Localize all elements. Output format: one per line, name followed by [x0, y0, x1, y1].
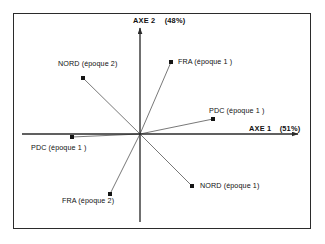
point-marker-NORD-epoque-1	[190, 184, 193, 187]
y-axis-label: AXE 2 (48%)	[133, 16, 185, 25]
point-label-FRA-epoque-2: FRA (époque 2)	[62, 196, 114, 205]
point-label-PDC-epoque-1-left: PDC (époque 1 )	[31, 143, 86, 152]
x-axis-variance-pct: (51%)	[280, 124, 301, 133]
point-label-NORD-epoque-2: NORD (époque 2)	[58, 59, 117, 68]
point-label-PDC-epoque-1-right: PDC (époque 1 )	[209, 106, 264, 115]
y-axis-variance-pct: (48%)	[165, 16, 186, 25]
connector-line	[140, 62, 171, 134]
point-marker-NORD-epoque-2	[81, 76, 84, 79]
point-label-FRA-epoque-1: FRA (époque 1 )	[178, 57, 232, 66]
connector-line	[140, 134, 192, 186]
point-marker-PDC-epoque-1-left	[70, 135, 73, 138]
chart-root: NORD (époque 2)FRA (époque 1 )PDC (époqu…	[0, 0, 325, 244]
point-marker-FRA-epoque-1	[169, 60, 172, 63]
x-axis-label-text: AXE 1	[249, 124, 271, 133]
scatter-plot-canvas	[0, 0, 325, 244]
y-axis-label-text: AXE 2	[133, 16, 155, 25]
point-label-NORD-epoque-1: NORD (époque 1)	[200, 181, 259, 190]
point-marker-PDC-epoque-1-right	[211, 117, 214, 120]
point-connector-lines	[72, 62, 213, 194]
x-axis-label: AXE 1 (51%)	[249, 124, 300, 133]
connector-line	[110, 134, 140, 194]
connector-line	[83, 78, 140, 134]
connector-line	[140, 119, 213, 134]
